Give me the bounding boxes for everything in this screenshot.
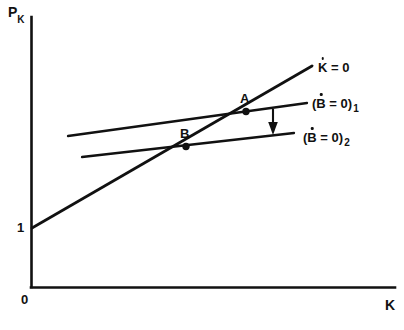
overdot-icon xyxy=(311,127,314,130)
point-marker-a xyxy=(242,108,249,115)
curve-label-b1-subscript: 1 xyxy=(353,103,359,114)
curve-label-k-rhs: = 0 xyxy=(331,60,349,75)
curve-label-k-dot-zero: K = 0 xyxy=(318,61,349,74)
curve-label-b1-rhs: = 0 xyxy=(329,96,347,111)
origin-label: 0 xyxy=(21,293,28,306)
phase-diagram-figure: PK K 0 1 K = 0 (B = 0)1 (B = 0)2 A B xyxy=(0,0,404,330)
point-marker-b xyxy=(182,143,189,150)
overdot-icon xyxy=(320,93,323,96)
y-axis-label: PK xyxy=(8,5,25,23)
paren-close: ) xyxy=(339,130,343,145)
y-axis-label-subscript: K xyxy=(17,14,24,25)
overdot-icon xyxy=(321,57,324,60)
curve-label-b2-rhs: = 0 xyxy=(320,130,338,145)
curve-label-b2-subscript: 2 xyxy=(344,137,350,148)
y-intercept-label: 1 xyxy=(17,221,24,234)
x-axis-label: K xyxy=(385,298,395,312)
paren-close: ) xyxy=(348,96,352,111)
plot-canvas xyxy=(0,0,404,330)
curve-label-b-dot-zero-1: (B = 0)1 xyxy=(312,97,358,110)
point-label-a: A xyxy=(240,92,249,105)
shift-arrow-icon xyxy=(268,109,278,135)
b-dot-variable-2: B xyxy=(307,131,316,144)
curve-label-b-dot-zero-2: (B = 0)2 xyxy=(303,131,349,144)
y-axis-label-letter: P xyxy=(8,4,17,20)
k-dot-variable: K xyxy=(318,61,327,74)
b-dot-variable-1: B xyxy=(316,97,325,110)
point-label-b: B xyxy=(180,127,189,140)
